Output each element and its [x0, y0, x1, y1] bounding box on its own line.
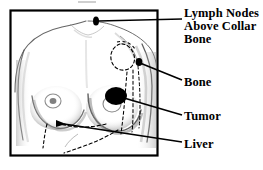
lymph-nodes-label: Lymph Nodes Above Collar Bone [184, 7, 259, 47]
left-torso-shading [16, 60, 30, 146]
tumor-label: Tumor [184, 110, 221, 123]
left-nipple [50, 98, 57, 104]
torso-fill [14, 21, 155, 150]
bone-label: Bone [184, 76, 212, 89]
liver-label: Liver [184, 138, 214, 151]
figure-container: Lymph Nodes Above Collar Bone Bone Tumor… [0, 0, 263, 170]
body-drawing [14, 21, 157, 153]
tumor-marker [105, 87, 127, 105]
right-torso-shading [136, 52, 156, 148]
sternum-line [86, 40, 87, 88]
scan-artifact [78, 1, 96, 3]
bone-marker [136, 58, 143, 66]
lymph-nodes-label-line3: Bone [184, 33, 259, 46]
